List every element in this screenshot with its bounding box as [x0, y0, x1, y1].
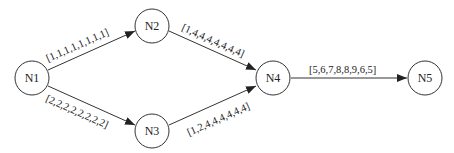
node-label: N3 [145, 124, 160, 138]
node-n2: N2 [135, 9, 169, 43]
node-label: N5 [418, 71, 433, 85]
edge-label-n1-n2: [1,1,1,1,1,1,1,1] [44, 26, 110, 63]
edge-label-n1-n3: [2,2,2,2,2,2,2,2] [44, 93, 110, 130]
node-n1: N1 [15, 61, 49, 95]
node-label: N1 [25, 71, 40, 85]
graph-diagram: [1,1,1,1,1,1,1,1] [2,2,2,2,2,2,2,2] [1,4… [0, 0, 454, 153]
node-label: N2 [145, 19, 160, 33]
node-n5: N5 [408, 61, 442, 95]
edge-label-n4-n5: [5,6,7,8,8,9,6,5] [309, 64, 376, 75]
node-n3: N3 [135, 114, 169, 148]
edge-label-n3-n4: [1,2,4,4,4,4,4,4] [185, 100, 251, 137]
node-n4: N4 [256, 61, 290, 95]
node-label: N4 [266, 71, 281, 85]
